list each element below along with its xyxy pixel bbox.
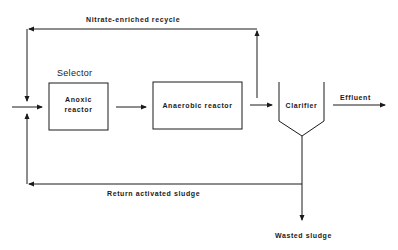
effluent-label: Effluent <box>340 94 371 101</box>
clarifier-label: Clarifier <box>279 101 324 111</box>
wasted-sludge-label: Wasted sludge <box>275 232 332 239</box>
return-sludge-label: Return activated sludge <box>107 190 200 197</box>
anoxic-label-line1: Anoxic <box>49 95 108 105</box>
anaerobic-reactor-label: Anaerobic reactor <box>153 101 242 111</box>
anoxic-reactor-label: Anoxic reactor <box>49 95 108 115</box>
anoxic-label-line2: reactor <box>49 105 108 115</box>
selector-label: Selector <box>57 69 92 78</box>
process-diagram: Nitrate-enriched recycle Selector Anoxic… <box>0 0 398 250</box>
diagram-lines <box>0 0 398 250</box>
recycle-label: Nitrate-enriched recycle <box>86 16 180 23</box>
